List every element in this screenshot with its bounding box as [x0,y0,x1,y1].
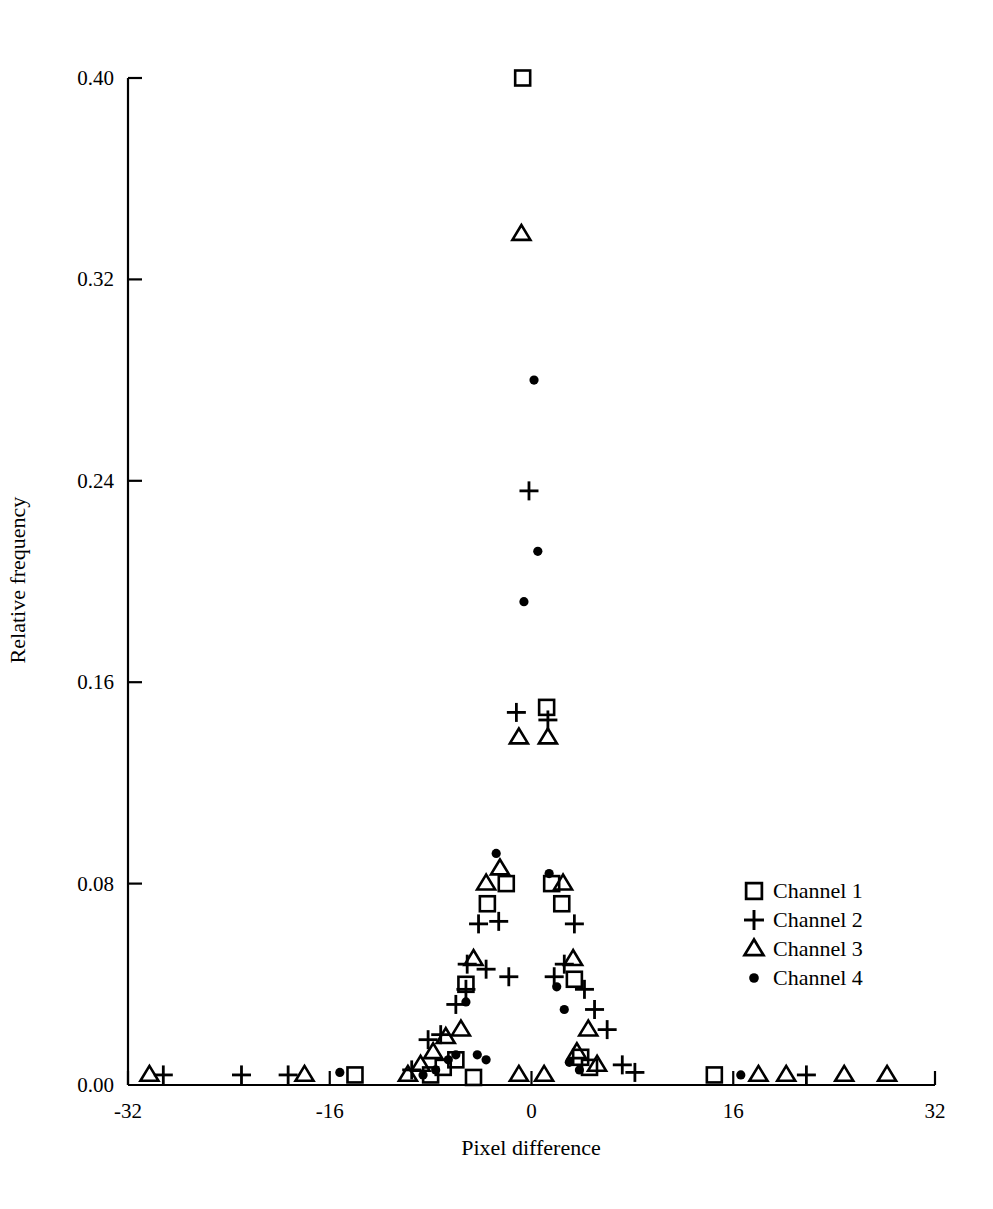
triangle-marker-icon [741,936,767,962]
data-point [499,876,514,891]
legend-item-3: Channel 3 [741,934,863,963]
data-point [529,376,538,385]
data-point [552,982,561,991]
data-point [533,547,542,556]
x-axis-tick-label: 16 [723,1099,744,1124]
legend-item-4: Channel 4 [741,963,863,992]
data-point [335,1068,344,1077]
data-point [567,972,582,987]
y-axis-tick-label: 0.00 [50,1073,114,1098]
data-point [535,1066,553,1081]
series-square [347,71,721,1085]
data-point [507,703,526,722]
data-point [477,960,496,979]
data-point [473,1050,482,1059]
data-point [469,914,488,933]
dot-marker-icon [741,965,767,991]
y-axis-tick-label: 0.08 [50,871,114,896]
data-point [492,849,501,858]
legend: Channel 1Channel 2Channel 3Channel 4 [741,876,863,992]
data-point [519,597,528,606]
data-point [585,1000,604,1019]
plus-marker-icon [741,907,767,933]
data-point [575,1065,584,1074]
data-point [510,1066,528,1081]
data-point [564,950,582,965]
data-point [347,1067,362,1082]
data-point [418,1070,427,1079]
data-point [491,859,509,874]
data-point [461,997,470,1006]
y-axis-tick-label: 0.16 [50,670,114,695]
data-point [519,481,538,500]
data-point [554,896,569,911]
series-plus [154,481,816,1084]
data-point [749,1066,767,1081]
data-point [579,1021,597,1036]
legend-item-label: Channel 2 [773,905,863,934]
data-point [480,896,495,911]
legend-item-label: Channel 1 [773,876,863,905]
y-axis-tick-label: 0.24 [50,468,114,493]
data-point [797,1065,816,1084]
data-point [777,1066,795,1081]
data-point [510,729,528,744]
data-point [835,1066,853,1081]
data-point [598,1020,617,1039]
data-point [736,1070,745,1079]
data-point [707,1067,722,1082]
data-point [565,1058,574,1067]
data-point [296,1066,314,1081]
data-point [560,1005,569,1014]
data-point [444,1055,453,1064]
data-point [512,225,530,240]
scatter-plot-figure: 0.000.080.160.240.320.40 -32-1601632 Rel… [0,0,993,1209]
data-point [539,729,557,744]
data-point [575,980,594,999]
x-axis-tick-label: 32 [925,1099,946,1124]
x-axis-tick-label: 0 [526,1099,537,1124]
legend-item-label: Channel 3 [773,934,863,963]
data-point [466,1070,481,1085]
data-point [140,1066,158,1081]
data-point [545,869,554,878]
data-point [431,1065,440,1074]
series-dot [335,376,745,1080]
x-axis-tick-label: -32 [114,1099,142,1124]
data-point [232,1065,251,1084]
data-point [515,71,530,86]
legend-item-1: Channel 1 [741,876,863,905]
data-point [565,914,584,933]
data-point [451,1050,460,1059]
data-point [482,1055,491,1064]
square-marker-icon [741,878,767,904]
legend-item-2: Channel 2 [741,905,863,934]
legend-item-label: Channel 4 [773,963,863,992]
data-point [452,1021,470,1036]
x-axis-title: Pixel difference [461,1135,600,1161]
y-axis-tick-label: 0.32 [50,267,114,292]
y-axis-title: Relative frequency [5,497,31,664]
data-point [477,875,495,890]
plot-canvas [0,0,993,1209]
data-point [489,912,508,931]
y-axis-tick-label: 0.40 [50,66,114,91]
data-point [499,967,518,986]
x-axis-tick-label: -16 [316,1099,344,1124]
data-point [878,1066,896,1081]
